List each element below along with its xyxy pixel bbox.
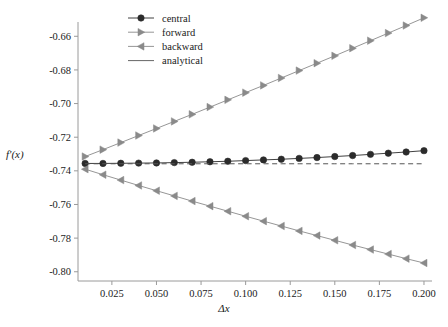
- data-point-forward: [367, 37, 374, 45]
- data-point-forward: [314, 59, 321, 67]
- data-point-backward: [331, 237, 338, 245]
- data-point-backward: [242, 213, 249, 221]
- data-point-backward: [135, 182, 142, 190]
- data-point-forward: [100, 146, 107, 154]
- data-point-central: [403, 149, 409, 155]
- series-forward: [82, 14, 428, 160]
- data-point-backward: [117, 176, 124, 184]
- data-point-forward: [171, 118, 178, 126]
- data-point-backward: [313, 232, 320, 240]
- x-tick-label: 0.150: [323, 288, 347, 299]
- data-point-forward: [153, 125, 160, 133]
- y-tick-label: -0.70: [49, 98, 71, 109]
- data-point-forward: [421, 14, 428, 21]
- legend-label-analytical: analytical: [162, 55, 203, 66]
- data-point-central: [153, 160, 159, 166]
- x-tick-label: 0.025: [100, 288, 124, 299]
- legend-marker-forward: [138, 28, 145, 36]
- y-tick-label: -0.76: [49, 199, 71, 210]
- series-backward: [81, 165, 427, 266]
- data-point-backward: [224, 207, 231, 215]
- data-point-forward: [296, 67, 303, 75]
- chart-figure: f'(x) Δx -0.66-0.68-0.70-0.72-0.74-0.76-…: [0, 0, 448, 327]
- y-tick-label: -0.74: [49, 165, 72, 176]
- data-point-central: [367, 151, 373, 157]
- data-point-forward: [82, 153, 89, 161]
- x-tick-label: 0.200: [412, 288, 436, 299]
- y-tick-label: -0.78: [49, 233, 71, 244]
- data-point-forward: [207, 103, 214, 111]
- data-point-forward: [225, 96, 232, 104]
- data-point-forward: [260, 82, 267, 90]
- data-point-central: [349, 152, 355, 158]
- x-tick-label: 0.050: [145, 288, 169, 299]
- data-point-central: [278, 156, 284, 162]
- data-point-backward: [420, 259, 427, 267]
- x-axis-ticks: 0.0250.0500.0750.1000.1250.1500.1750.200: [100, 281, 436, 299]
- plot-canvas: -0.66-0.68-0.70-0.72-0.74-0.76-0.78-0.80…: [0, 0, 448, 327]
- legend-label-backward: backward: [162, 41, 204, 52]
- data-point-forward: [403, 22, 410, 30]
- y-tick-label: -0.72: [49, 132, 71, 143]
- data-point-backward: [349, 241, 356, 249]
- data-point-forward: [243, 89, 250, 97]
- x-tick-label: 0.075: [189, 288, 213, 299]
- data-point-forward: [118, 139, 125, 147]
- data-point-forward: [385, 29, 392, 36]
- chart-legend: centralforwardbackwardanalytical: [128, 13, 204, 67]
- data-point-backward: [153, 187, 160, 195]
- legend-item-central[interactable]: central: [128, 13, 191, 24]
- data-point-backward: [171, 192, 178, 200]
- data-point-backward: [278, 222, 285, 230]
- data-point-backward: [402, 255, 409, 262]
- data-point-backward: [99, 171, 106, 179]
- y-tick-label: -0.68: [49, 65, 71, 76]
- data-point-central: [421, 147, 427, 153]
- data-point-backward: [385, 250, 392, 258]
- data-point-central: [314, 154, 320, 160]
- data-point-backward: [295, 227, 302, 235]
- y-axis-ticks: -0.66-0.68-0.70-0.72-0.74-0.76-0.78-0.80: [49, 31, 78, 277]
- legend-marker-central: [138, 15, 144, 21]
- data-point-central: [189, 159, 195, 165]
- data-point-backward: [367, 246, 374, 254]
- data-point-central: [332, 153, 338, 159]
- data-point-backward: [206, 202, 213, 210]
- data-point-forward: [350, 44, 357, 52]
- y-tick-label: -0.80: [49, 266, 71, 277]
- y-tick-label: -0.66: [49, 31, 71, 42]
- data-point-backward: [188, 197, 195, 205]
- data-point-forward: [332, 52, 339, 60]
- legend-label-central: central: [162, 13, 191, 24]
- data-point-central: [171, 159, 177, 165]
- data-point-central: [118, 160, 124, 166]
- x-tick-label: 0.100: [234, 288, 258, 299]
- legend-item-forward[interactable]: forward: [128, 27, 196, 38]
- data-point-backward: [260, 217, 267, 225]
- legend-item-analytical[interactable]: analytical: [128, 55, 203, 66]
- legend-label-forward: forward: [162, 27, 196, 38]
- x-tick-label: 0.125: [278, 288, 302, 299]
- x-tick-label: 0.175: [368, 288, 392, 299]
- data-point-forward: [278, 74, 285, 82]
- data-point-central: [242, 157, 248, 163]
- legend-marker-backward: [137, 43, 144, 51]
- data-point-central: [135, 160, 141, 166]
- data-point-forward: [189, 111, 196, 119]
- data-series-layer: [81, 14, 427, 267]
- legend-item-backward[interactable]: backward: [128, 41, 204, 52]
- data-point-central: [296, 155, 302, 161]
- data-point-forward: [136, 132, 143, 140]
- data-point-central: [385, 150, 391, 156]
- data-point-central: [260, 157, 266, 163]
